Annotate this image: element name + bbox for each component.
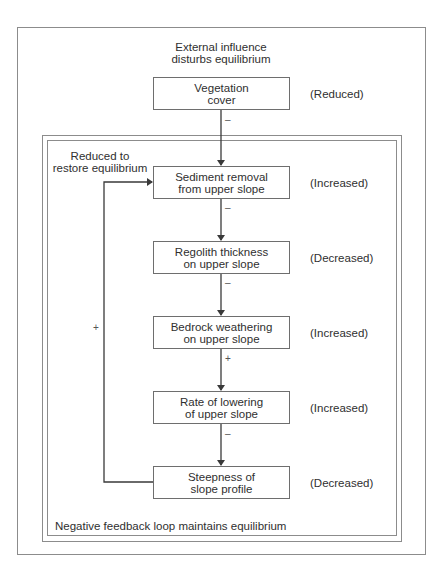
heading-line-2: disturbs equilibrium [121,53,321,65]
loop-note-line-2: restore equilibrium [50,162,150,174]
node-sediment-removal: Sediment removal from upper slope [153,166,290,199]
state-rate-of-lowering: (Increased) [310,402,368,414]
state-steepness-of-slope: (Decreased) [310,477,373,489]
node-vegetation-cover: Vegetation cover [153,77,290,110]
state-regolith-thickness: (Decreased) [310,252,373,264]
loop-note: Reduced to restore equilibrium [50,150,150,174]
node-label-line-2: cover [207,94,235,106]
node-label-line-1: Rate of lowering [180,396,263,408]
node-regolith-thickness: Regolith thickness on upper slope [153,241,290,274]
loop-note-line-1: Reduced to [50,150,150,162]
node-label-line-1: Sediment removal [175,171,268,183]
node-label-line-2: slope profile [190,483,252,495]
negative-feedback-note: Negative feedback loop maintains equilib… [55,520,286,532]
node-bedrock-weathering: Bedrock weathering on upper slope [153,316,290,349]
edge-sign-sediment-regolith: – [225,203,231,213]
edge-sign-vegetation-sediment: – [225,115,231,125]
heading-line-1: External influence [121,41,321,53]
node-label-line-1: Vegetation [194,82,248,94]
node-label-line-1: Bedrock weathering [171,321,273,333]
node-label-line-2: on upper slope [183,333,259,345]
edge-sign-bedrock-rate: + [225,354,231,364]
edge-sign-feedback: + [93,323,99,333]
node-label-line-1: Regolith thickness [175,246,268,258]
external-influence-heading: External influence disturbs equilibrium [121,41,321,65]
state-bedrock-weathering: (Increased) [310,327,368,339]
node-label-line-2: of upper slope [185,408,258,420]
node-steepness-of-slope: Steepness of slope profile [153,466,290,499]
node-label-line-2: on upper slope [183,258,259,270]
edge-sign-rate-steepness: – [225,429,231,439]
node-label-line-2: from upper slope [178,183,264,195]
node-label-line-1: Steepness of [188,471,255,483]
state-sediment-removal: (Increased) [310,177,368,189]
node-rate-of-lowering: Rate of lowering of upper slope [153,391,290,424]
state-vegetation-cover: (Reduced) [310,88,364,100]
edge-sign-regolith-bedrock: – [225,278,231,288]
